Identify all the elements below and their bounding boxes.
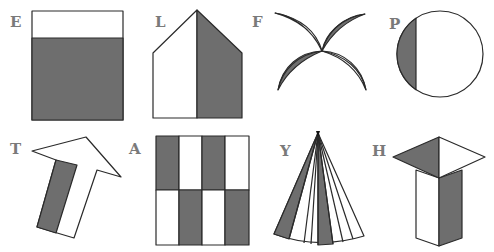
- figure-h: H: [372, 137, 485, 246]
- label-a: A: [128, 140, 141, 158]
- label-t: T: [10, 140, 22, 158]
- cell-r1c2: [179, 136, 202, 190]
- figure-y: Y: [274, 131, 364, 245]
- leaf-bottom-left-shaded: [278, 51, 322, 90]
- figure-t: T: [10, 137, 121, 238]
- figure-canvas: E L F P T A: [0, 0, 494, 252]
- figure-p: P: [389, 11, 483, 97]
- cell-r1c4: [225, 136, 249, 190]
- shaded-region: [32, 38, 123, 120]
- prism-right-face-shaded: [439, 170, 462, 246]
- figure-l: L: [153, 10, 242, 118]
- label-h: H: [372, 142, 386, 160]
- cell-r2c2-shaded: [179, 190, 202, 245]
- label-p: P: [389, 15, 400, 33]
- label-f: F: [252, 13, 263, 31]
- leaf-bottom-right: [322, 51, 366, 90]
- leaf-top-left: [275, 13, 322, 51]
- prism-left-face: [416, 170, 439, 246]
- label-e: E: [10, 13, 21, 31]
- label-y: Y: [279, 142, 291, 160]
- cell-r2c1: [156, 190, 179, 245]
- label-l: L: [155, 13, 166, 31]
- cell-r1c1-shaded: [156, 136, 179, 190]
- figure-e: E: [10, 11, 123, 120]
- leaf-top-right-shaded: [322, 14, 365, 51]
- cell-r1c3-shaded: [202, 136, 225, 190]
- cell-r2c4-shaded: [225, 190, 249, 245]
- cell-r2c3: [202, 190, 225, 245]
- figure-a: A: [128, 136, 249, 245]
- figure-f: F: [252, 13, 366, 90]
- shaded-right-half: [197, 10, 242, 118]
